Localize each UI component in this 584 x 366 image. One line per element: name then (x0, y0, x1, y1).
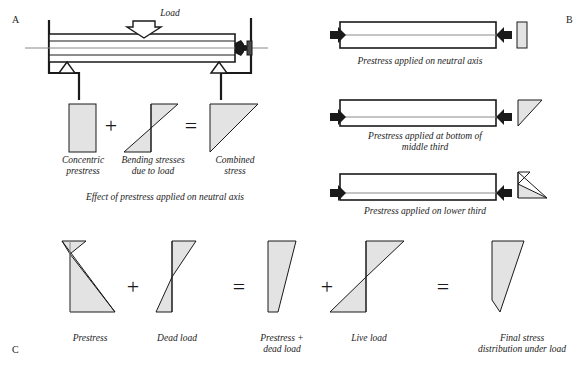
label-c-prestress: Prestress (55, 333, 125, 344)
operator-plus-c2: + (316, 276, 338, 298)
label-c-final-stress: Final stress distribution under load (462, 333, 582, 355)
stress-c1-top-triangle (62, 241, 86, 254)
stress-c5-final-triangle (492, 241, 524, 312)
panel-c-drawing (0, 0, 584, 366)
operator-equals-c2: = (432, 276, 454, 298)
operator-equals-c1: = (228, 276, 250, 298)
stress-c2-lower (156, 277, 172, 312)
label-c-live-load: Live load (334, 333, 404, 344)
stress-c4-upper (366, 241, 404, 277)
prestressed-beam-stress-figure: A Load + = Concentric prestress (0, 0, 584, 366)
stress-c3-triangle (268, 241, 296, 312)
operator-plus-c1: + (122, 276, 144, 298)
label-c-dead-load: Dead load (142, 333, 212, 344)
label-c-prestress-plus-dead-load: Prestress + dead load (244, 333, 320, 355)
stress-c2-upper (172, 241, 196, 277)
